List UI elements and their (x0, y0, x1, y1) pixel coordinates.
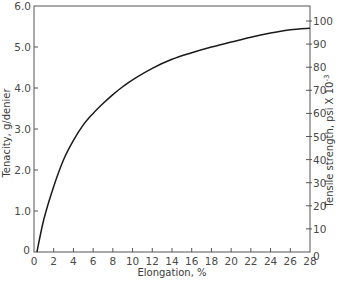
x-tick-label: 18 (205, 255, 218, 267)
right-y-axis-title: Tensile strength, psi X 10-3 (323, 75, 335, 209)
right-y-tick-label: 10 (313, 223, 326, 235)
left-y-tick-label: 2.0 (14, 164, 31, 176)
data-series (37, 28, 310, 252)
right-y-tick-label: 80 (313, 61, 326, 73)
right-y-axis-title-times: X 10 (324, 82, 335, 105)
x-tick-label: 26 (284, 255, 298, 267)
x-tick-label: 12 (146, 255, 159, 267)
x-tick-label: 10 (126, 255, 139, 267)
tenacity-curve (37, 28, 310, 252)
x-tick-label: 8 (110, 255, 117, 267)
x-tick-label: 20 (224, 255, 237, 267)
x-tick-label: 0 (31, 255, 38, 267)
x-tick-label: 22 (244, 255, 257, 267)
x-tick-label: 24 (264, 255, 278, 267)
plot-frame (34, 6, 310, 252)
right-y-tick-label: 0 (313, 250, 320, 262)
left-y-tick-label: 6.0 (14, 0, 31, 12)
right-y-axis-title-exponent: -3 (323, 75, 331, 82)
right-y-tick-label: 100 (313, 15, 333, 27)
x-tick-label: 2 (50, 255, 57, 267)
left-y-tick-label: 5.0 (14, 41, 31, 53)
left-y-tick-label: 3.0 (14, 123, 31, 135)
x-tick-label: 16 (185, 255, 199, 267)
x-tick-label: 6 (90, 255, 97, 267)
x-axis-ticks: 0246810121416182022242628 (31, 248, 317, 267)
x-tick-label: 4 (70, 255, 77, 267)
right-y-axis-title-main: Tensile strength, psi (324, 104, 335, 208)
left-y-tick-label: 1.0 (14, 205, 31, 217)
left-y-tick-label: 0 (23, 244, 30, 256)
plot-border (34, 6, 310, 252)
tenacity-elongation-chart: 0246810121416182022242628 01.02.03.04.05… (0, 0, 341, 283)
x-axis-title: Elongation, % (137, 267, 206, 278)
right-y-tick-label: 90 (313, 38, 326, 50)
x-tick-label: 14 (165, 255, 179, 267)
left-y-tick-label: 4.0 (14, 82, 31, 94)
left-y-axis-title: Tenacity, g/denier (1, 88, 12, 179)
